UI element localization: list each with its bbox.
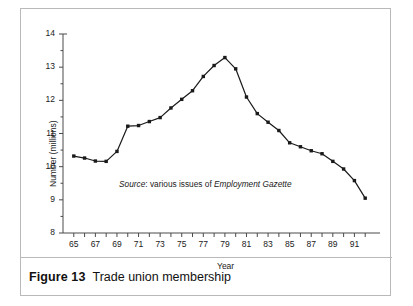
chart-axes: [59, 34, 380, 237]
x-tick-label: 71: [130, 239, 148, 249]
x-tick-label: 81: [237, 239, 255, 249]
figure-caption-text: Trade union membership: [92, 270, 231, 284]
chart-plot-area: Number (millions) Year 891011121314 6567…: [21, 9, 392, 257]
y-tick-label: 14: [39, 28, 55, 38]
source-middle-text: various issues of: [150, 179, 214, 189]
x-tick-label: 87: [302, 239, 320, 249]
figure-caption: Figure 13 Trade union membership: [21, 257, 392, 295]
y-tick-label: 8: [39, 227, 55, 237]
x-tick-label: 83: [259, 239, 277, 249]
source-publication: Employment Gazette: [214, 179, 291, 189]
x-tick-label: 79: [216, 239, 234, 249]
chart-svg: [21, 9, 392, 257]
x-tick-label: 77: [194, 239, 212, 249]
x-tick-label: 85: [281, 239, 299, 249]
figure-frame: Number (millions) Year 891011121314 6567…: [20, 8, 391, 296]
x-tick-label: 91: [345, 239, 363, 249]
x-tick-label: 65: [65, 239, 83, 249]
x-tick-label: 69: [108, 239, 126, 249]
source-label: Source: [119, 179, 145, 189]
x-tick-label: 73: [151, 239, 169, 249]
figure-caption-number: Figure 13: [29, 270, 85, 284]
y-tick-label: 11: [39, 128, 55, 138]
y-tick-label: 13: [39, 61, 55, 71]
y-tick-label: 9: [39, 194, 55, 204]
y-tick-label: 10: [39, 161, 55, 171]
x-tick-label: 89: [324, 239, 342, 249]
y-tick-label: 12: [39, 94, 55, 104]
source-annotation: Source: various issues of Employment Gaz…: [119, 179, 292, 189]
x-tick-label: 75: [173, 239, 191, 249]
x-tick-label: 67: [86, 239, 104, 249]
